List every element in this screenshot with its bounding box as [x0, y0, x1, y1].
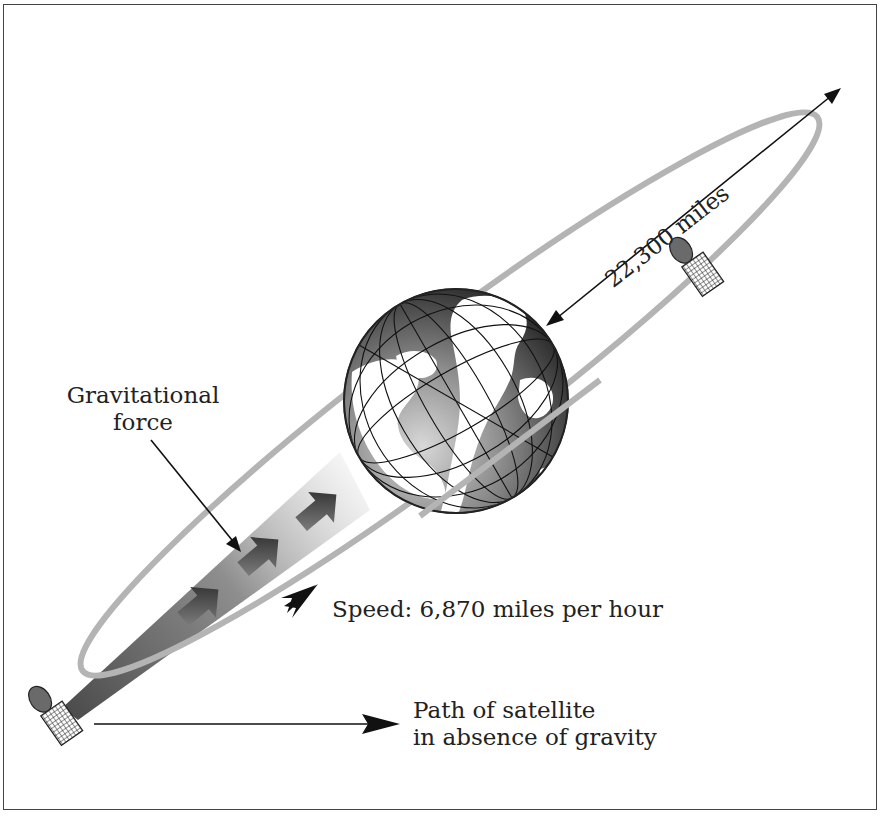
inertial-path-arrow	[94, 714, 400, 734]
inertial-path-label: Path of satellite in absence of gravity	[413, 697, 657, 751]
inertial-path-line2: in absence of gravity	[413, 724, 657, 751]
inertial-path-line1: Path of satellite	[413, 697, 657, 724]
gravitational-force-label: Gravitational force	[48, 382, 238, 436]
gravitational-force-line1: Gravitational	[48, 382, 238, 409]
orbit-direction-arrow-icon	[281, 584, 318, 618]
gravity-cone	[62, 452, 370, 720]
gravity-arrows	[170, 479, 349, 634]
gravitational-force-line2: force	[48, 409, 238, 436]
speed-label: Speed: 6,870 miles per hour	[332, 596, 663, 623]
